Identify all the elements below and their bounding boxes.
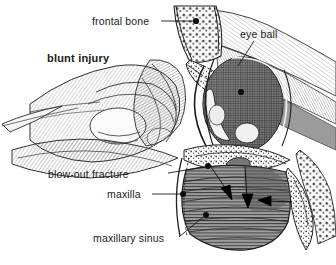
marker-eye-ball <box>238 89 244 95</box>
marker-maxillary-sinus <box>203 212 209 218</box>
illustration-canvas: frontal bone eye ball blunt injury blow-… <box>0 0 336 265</box>
label-eye-ball: eye ball <box>240 28 277 40</box>
marker-maxilla <box>180 191 186 197</box>
label-frontal-bone: frontal bone <box>92 15 149 27</box>
anatomical-illustration: frontal bone eye ball blunt injury blow-… <box>0 0 336 265</box>
label-maxillary-sinus: maxillary sinus <box>93 232 164 244</box>
label-blow-out-fracture: blow-out fracture <box>48 168 129 180</box>
marker-blow-out-fracture <box>205 163 211 169</box>
label-maxilla: maxilla <box>107 188 141 200</box>
marker-frontal-bone <box>193 18 199 24</box>
label-blunt-injury: blunt injury <box>47 52 110 64</box>
